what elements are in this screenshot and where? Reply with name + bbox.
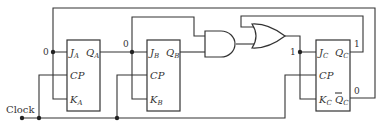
cpc-label: CP bbox=[319, 70, 334, 81]
junction-clock-a bbox=[37, 116, 41, 120]
clock-label: Clock bbox=[6, 104, 35, 115]
cpa-label: CP bbox=[70, 70, 85, 81]
and-gate bbox=[205, 31, 235, 57]
jc-value: 1 bbox=[290, 47, 296, 57]
cpb-label: CP bbox=[150, 70, 165, 81]
qbarc-value: 0 bbox=[354, 86, 360, 96]
or-gate bbox=[252, 24, 285, 48]
ja-value: 0 bbox=[43, 47, 49, 57]
junction-jb bbox=[130, 50, 134, 54]
junction-jc bbox=[298, 50, 302, 54]
qa-value: 0 bbox=[123, 39, 129, 49]
junction-clock-b bbox=[115, 116, 119, 120]
qc-value: 1 bbox=[354, 39, 360, 49]
junction-ja bbox=[51, 50, 55, 54]
circuit-diagram: JA QA CP KA JB QB CP KB JC QC CP KC QC 0… bbox=[0, 0, 381, 123]
clock-terminal bbox=[20, 116, 24, 120]
